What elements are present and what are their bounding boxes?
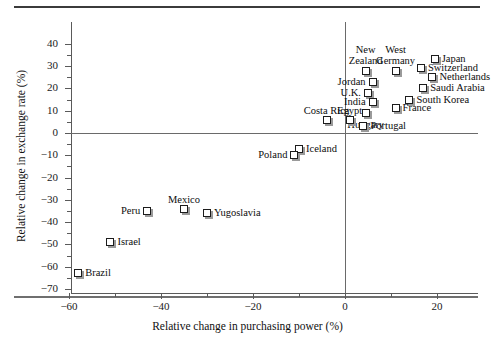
y-tick	[65, 155, 71, 156]
x-tick	[437, 293, 438, 299]
data-point-label: France	[403, 102, 432, 113]
bottom-horizontal-rule	[14, 296, 478, 298]
data-point-marker[interactable]	[419, 84, 427, 92]
data-point-marker[interactable]	[392, 104, 400, 112]
data-point-marker[interactable]	[106, 238, 114, 246]
y-tick-label: 30	[24, 60, 58, 71]
y-tick	[65, 289, 71, 290]
top-horizontal-rule	[14, 6, 480, 8]
y-tick-label: −50	[24, 238, 58, 249]
y-tick	[65, 133, 71, 134]
x-tick-minor	[299, 293, 300, 297]
data-point-label: Brazil	[85, 267, 111, 278]
y-tick-label: 10	[24, 105, 58, 116]
data-point-label: Yugoslavia	[214, 207, 261, 218]
y-tick-minor	[67, 233, 71, 234]
y-tick-minor	[67, 144, 71, 145]
data-point-marker[interactable]	[369, 78, 377, 86]
x-tick-label: −40	[138, 301, 184, 312]
x-tick-label: 20	[414, 301, 460, 312]
y-tick-minor	[67, 122, 71, 123]
data-point-label: Jordan	[236, 76, 366, 87]
data-point-marker[interactable]	[290, 151, 298, 159]
x-tick-label: −60	[46, 301, 92, 312]
data-point-marker[interactable]	[346, 116, 354, 124]
data-point-label: Iceland	[306, 143, 337, 154]
data-point-marker[interactable]	[362, 67, 370, 75]
y-tick	[65, 222, 71, 223]
data-point-marker[interactable]	[180, 205, 188, 213]
y-tick	[65, 111, 71, 112]
x-axis-line	[71, 293, 478, 294]
y-tick-label: −40	[24, 216, 58, 227]
x-tick	[161, 293, 162, 299]
data-point-marker[interactable]	[359, 122, 367, 130]
data-point-marker[interactable]	[143, 207, 151, 215]
data-point-label: Netherlands	[439, 71, 490, 82]
y-tick	[65, 88, 71, 89]
y-tick	[65, 244, 71, 245]
scatter-plot-figure: −70−60−50−40−30−20−10010203040 −60−40−20…	[0, 0, 495, 346]
data-point-label: Portugal	[370, 120, 406, 131]
x-tick-minor	[391, 293, 392, 297]
data-point-marker[interactable]	[74, 269, 82, 277]
x-axis-title: Relative change in purchasing power (%)	[0, 320, 495, 332]
y-tick-label: −70	[24, 283, 58, 294]
y-tick-minor	[67, 278, 71, 279]
data-point-label: Israel	[117, 236, 140, 247]
y-tick-minor	[67, 256, 71, 257]
y-axis-line	[71, 22, 72, 294]
y-tick	[65, 267, 71, 268]
y-tick	[65, 200, 71, 201]
y-tick-minor	[67, 55, 71, 56]
x-tick-minor	[115, 293, 116, 297]
y-tick-label: 0	[24, 127, 58, 138]
y-tick-label: 20	[24, 82, 58, 93]
y-tick	[65, 44, 71, 45]
y-tick-minor	[67, 189, 71, 190]
x-tick	[345, 293, 346, 299]
x-tick	[69, 293, 70, 299]
x-tick-minor	[207, 293, 208, 297]
zero-reference-line-horizontal	[71, 133, 478, 134]
data-point-label: Mexico	[144, 194, 224, 205]
y-tick-label: −20	[24, 172, 58, 183]
y-axis-title: Relative change in exchange rate (%)	[15, 31, 27, 281]
y-tick-minor	[67, 100, 71, 101]
y-tick	[65, 66, 71, 67]
y-tick-label: −30	[24, 194, 58, 205]
data-point-label: Saudi Arabia	[430, 82, 485, 93]
y-tick	[65, 178, 71, 179]
y-tick-label: −10	[24, 149, 58, 160]
data-point-marker[interactable]	[323, 116, 331, 124]
data-point-label: Peru	[10, 205, 140, 216]
data-point-marker[interactable]	[392, 67, 400, 75]
data-point-marker[interactable]	[428, 73, 436, 81]
x-tick-label: 0	[322, 301, 368, 312]
data-point-label: Costa Rica	[287, 105, 367, 116]
data-point-label: Poland	[157, 149, 287, 160]
x-tick-label: −20	[230, 301, 276, 312]
y-tick-label: 40	[24, 38, 58, 49]
y-tick-minor	[67, 166, 71, 167]
y-tick-minor	[67, 77, 71, 78]
x-tick	[253, 293, 254, 299]
data-point-label: New Zealand	[326, 44, 406, 66]
y-tick-label: −60	[24, 261, 58, 272]
data-point-marker[interactable]	[203, 209, 211, 217]
